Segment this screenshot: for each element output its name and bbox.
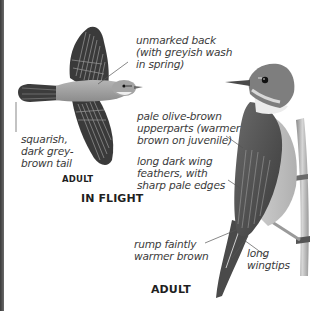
annotation-rump: rump faintly warmer brown	[134, 238, 209, 262]
annotation-wing-feathers: long dark wing feathers, with sharp pale…	[137, 155, 225, 191]
annotation-wingtips: long wingtips	[247, 247, 290, 271]
flight-age-label: ADULT	[62, 174, 93, 184]
annotation-upperparts: pale olive-brown upperparts (warmer brow…	[137, 110, 240, 146]
field-guide-plate: unmarked back (with greyish wash in spri…	[0, 0, 328, 311]
flight-title: IN FLIGHT	[81, 192, 143, 205]
annotation-unmarked-back: unmarked back (with greyish wash in spri…	[136, 34, 232, 70]
annotation-tail: squarish, dark grey- brown tail	[21, 133, 73, 169]
perched-age-label: ADULT	[151, 283, 191, 296]
